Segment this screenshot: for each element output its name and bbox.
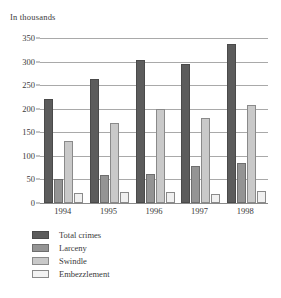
bar-total-crimes-1996[interactable] bbox=[136, 60, 145, 203]
bar-embezzlement-1994[interactable] bbox=[74, 193, 83, 203]
bar-group-1994 bbox=[44, 38, 83, 203]
bar-embezzlement-1997[interactable] bbox=[211, 194, 220, 203]
bar-total-crimes-1995[interactable] bbox=[90, 79, 99, 203]
legend-swatch-icon bbox=[32, 231, 49, 239]
bar-group-1995 bbox=[90, 38, 129, 203]
ytick-label-350: 350 bbox=[22, 33, 35, 43]
legend-item-larceny[interactable]: Larceny bbox=[32, 242, 110, 254]
legend-swatch-icon bbox=[32, 244, 49, 252]
bar-total-crimes-1998[interactable] bbox=[227, 44, 236, 203]
ytick-mark-150 bbox=[36, 132, 40, 133]
ytick-mark-100 bbox=[36, 155, 40, 156]
bar-group-1998 bbox=[227, 38, 266, 203]
legend-swatch-icon bbox=[32, 257, 49, 265]
ytick-label-50: 50 bbox=[27, 174, 36, 184]
bar-embezzlement-1995[interactable] bbox=[120, 192, 129, 203]
bar-total-crimes-1997[interactable] bbox=[181, 64, 190, 203]
bar-swindle-1994[interactable] bbox=[64, 141, 73, 203]
bar-larceny-1996[interactable] bbox=[146, 174, 155, 203]
bar-larceny-1998[interactable] bbox=[237, 163, 246, 203]
bar-swindle-1998[interactable] bbox=[247, 105, 256, 203]
bar-total-crimes-1994[interactable] bbox=[44, 99, 53, 203]
bar-swindle-1996[interactable] bbox=[156, 109, 165, 203]
bar-embezzlement-1996[interactable] bbox=[166, 192, 175, 203]
bar-swindle-1997[interactable] bbox=[201, 118, 210, 203]
ytick-mark-300 bbox=[36, 61, 40, 62]
xtick-label-1996: 1996 bbox=[131, 206, 177, 216]
ytick-label-300: 300 bbox=[22, 57, 35, 67]
ytick-label-100: 100 bbox=[22, 151, 35, 161]
bar-larceny-1994[interactable] bbox=[54, 179, 63, 204]
ytick-mark-0 bbox=[36, 203, 40, 204]
legend-label: Total crimes bbox=[59, 230, 101, 240]
ytick-label-250: 250 bbox=[22, 80, 35, 90]
legend-swatch-icon bbox=[32, 270, 49, 278]
plot-area: 0501001502002503003501994199519961997199… bbox=[40, 38, 268, 203]
xtick-label-1998: 1998 bbox=[222, 206, 268, 216]
chart-axis-title: In thousands bbox=[10, 12, 56, 22]
ytick-mark-50 bbox=[36, 179, 40, 180]
legend-item-total-crimes[interactable]: Total crimes bbox=[32, 229, 110, 241]
legend-label: Swindle bbox=[59, 256, 87, 266]
ytick-mark-350 bbox=[36, 38, 40, 39]
legend-item-swindle[interactable]: Swindle bbox=[32, 255, 110, 267]
bar-embezzlement-1998[interactable] bbox=[257, 191, 266, 203]
bar-swindle-1995[interactable] bbox=[110, 123, 119, 203]
bar-larceny-1997[interactable] bbox=[191, 166, 200, 203]
ytick-label-0: 0 bbox=[31, 198, 35, 208]
xtick-label-1997: 1997 bbox=[177, 206, 223, 216]
ytick-label-200: 200 bbox=[22, 104, 35, 114]
ytick-label-150: 150 bbox=[22, 127, 35, 137]
gridline-0 bbox=[40, 203, 268, 204]
legend-label: Larceny bbox=[59, 243, 87, 253]
ytick-mark-200 bbox=[36, 108, 40, 109]
ytick-mark-250 bbox=[36, 85, 40, 86]
legend-label: Embezzlement bbox=[59, 269, 110, 279]
bar-chart-figure: In thousands 050100150200250300350199419… bbox=[0, 0, 281, 298]
bar-group-1996 bbox=[136, 38, 175, 203]
bar-larceny-1995[interactable] bbox=[100, 175, 109, 203]
bar-group-1997 bbox=[181, 38, 220, 203]
xtick-label-1995: 1995 bbox=[86, 206, 132, 216]
legend-item-embezzlement[interactable]: Embezzlement bbox=[32, 268, 110, 280]
chart-legend: Total crimesLarcenySwindleEmbezzlement bbox=[32, 229, 110, 281]
xtick-label-1994: 1994 bbox=[40, 206, 86, 216]
